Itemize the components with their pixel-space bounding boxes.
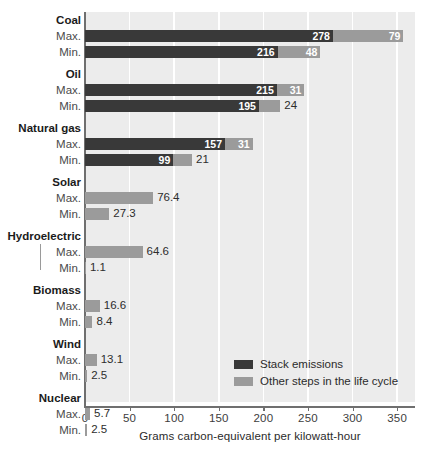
bar-value-other-steps: 13.1 — [101, 354, 123, 366]
gridline-150 — [218, 12, 220, 402]
bar-row: Max.16.6 — [0, 300, 429, 312]
group-label-hydroelectric: Hydroelectric — [0, 230, 81, 242]
bar-segment-stack-emissions: 215 — [85, 84, 277, 96]
row-label-max: Max. — [0, 354, 81, 366]
row-label-min: Min. — [0, 370, 81, 382]
gridline-300 — [352, 12, 354, 402]
bar-segment-other-steps: 31 — [225, 138, 253, 150]
legend-label-stack-emissions: Stack emissions — [260, 358, 343, 370]
bar-segment-other-steps: 48 — [278, 46, 321, 58]
row-label-max: Max. — [0, 300, 81, 312]
bar-value-other-steps: 8.4 — [96, 316, 112, 328]
bar-row: Min.8.4 — [0, 316, 429, 328]
group-label-nuclear: Nuclear — [0, 392, 81, 404]
bar-segment-other-steps: 8.4 — [85, 316, 92, 328]
legend-item-stack-emissions: Stack emissions — [234, 357, 398, 371]
bar-value-other-steps: 79 — [389, 31, 401, 42]
row-label-max: Max. — [0, 192, 81, 204]
row-label-max: Max. — [0, 84, 81, 96]
bar-segment-stack-emissions: 157 — [85, 138, 225, 150]
legend-item-other-steps: Other steps in the life cycle — [234, 374, 398, 388]
bar-segment-other-steps: 76.4 — [85, 192, 153, 204]
bar-value-stack-emissions: 99 — [159, 155, 171, 166]
bar-value-other-steps: 31 — [290, 85, 302, 96]
bar-segment-other-steps: 24 — [259, 100, 280, 112]
bar-segment-other-steps: 79 — [333, 30, 403, 42]
stacked-bar: 13.1 — [85, 354, 97, 366]
group-label-coal: Coal — [0, 14, 81, 26]
bar-value-other-steps: 2.5 — [91, 370, 107, 382]
legend-label-other-steps: Other steps in the life cycle — [260, 375, 398, 387]
bar-segment-other-steps: 31 — [277, 84, 305, 96]
stacked-bar: 15731 — [85, 138, 253, 150]
row-label-max: Max. — [0, 30, 81, 42]
bar-segment-other-steps: 1.1 — [85, 262, 86, 274]
group-label-oil: Oil — [0, 68, 81, 80]
legend-swatch-other-steps — [234, 377, 253, 386]
bar-segment-other-steps: 16.6 — [85, 300, 100, 312]
x-axis-title: Grams carbon-equivalent per kilowatt-hou… — [85, 430, 415, 442]
bar-value-other-steps: 16.6 — [104, 300, 126, 312]
bar-row: Min.27.3 — [0, 208, 429, 220]
bar-value-stack-emissions: 278 — [312, 31, 330, 42]
bar-value-other-steps: 1.1 — [90, 262, 106, 274]
bar-row: Max.15731 — [0, 138, 429, 150]
bar-row: Min.1.1 — [0, 262, 429, 274]
bar-value-other-steps: 21 — [196, 154, 209, 166]
gridline-250 — [307, 12, 309, 402]
stacked-bar: 9921 — [85, 154, 192, 166]
legend-swatch-stack-emissions — [234, 360, 253, 369]
stacked-bar: 8.4 — [85, 316, 92, 328]
bar-value-other-steps: 24 — [284, 100, 297, 112]
bar-value-other-steps: 76.4 — [157, 192, 179, 204]
bar-row: Max.64.6 — [0, 246, 429, 258]
stacked-bar: 19524 — [85, 100, 280, 112]
row-label-min: Min. — [0, 316, 81, 328]
stacked-bar: 27879 — [85, 30, 403, 42]
row-label-min: Min. — [0, 154, 81, 166]
bar-segment-other-steps: 27.3 — [85, 208, 109, 220]
bar-value-other-steps: 5.7 — [94, 408, 110, 420]
bar-value-stack-emissions: 195 — [238, 101, 256, 112]
row-label-min: Min. — [0, 424, 81, 436]
stacked-bar: 1.1 — [85, 262, 86, 274]
stacked-bar: 5.7 — [85, 408, 90, 420]
bar-segment-other-steps: 64.6 — [85, 246, 143, 258]
row-label-min: Min. — [0, 100, 81, 112]
stacked-bar: 2.5 — [85, 370, 87, 382]
row-label-max: Max. — [0, 246, 81, 258]
bar-value-stack-emissions: 215 — [256, 85, 274, 96]
gridline-200 — [263, 12, 265, 402]
bar-value-stack-emissions: 157 — [204, 139, 222, 150]
row-label-max: Max. — [0, 138, 81, 150]
bar-segment-other-steps: 21 — [173, 154, 192, 166]
bar-value-other-steps: 48 — [306, 47, 318, 58]
stacked-bar: 76.4 — [85, 192, 153, 204]
stacked-bar: 64.6 — [85, 246, 143, 258]
bar-value-other-steps: 31 — [238, 139, 250, 150]
group-label-natural-gas: Natural gas — [0, 122, 81, 134]
bar-segment-stack-emissions: 195 — [85, 100, 259, 112]
group-label-wind: Wind — [0, 338, 81, 350]
gridline-100 — [173, 12, 175, 402]
legend: Stack emissions Other steps in the life … — [234, 357, 398, 391]
row-label-min: Min. — [0, 262, 81, 274]
bar-value-stack-emissions: 216 — [257, 47, 275, 58]
bar-segment-other-steps: 5.7 — [85, 408, 90, 420]
row-label-min: Min. — [0, 46, 81, 58]
stacked-bar: 27.3 — [85, 208, 109, 220]
bar-segment-stack-emissions: 99 — [85, 154, 173, 166]
row-label-min: Min. — [0, 208, 81, 220]
bar-row: Max.27879 — [0, 30, 429, 42]
group-label-biomass: Biomass — [0, 284, 81, 296]
emissions-bar-chart: 050100150200250300350 CoalMax.27879Min.2… — [0, 0, 429, 459]
gridline-350 — [396, 12, 398, 402]
stacked-bar: 21531 — [85, 84, 304, 96]
bar-value-other-steps: 27.3 — [113, 208, 135, 220]
bar-segment-stack-emissions: 278 — [85, 30, 333, 42]
bar-row: Max.76.4 — [0, 192, 429, 204]
bar-row: Min.9921 — [0, 154, 429, 166]
bar-row: Max.21531 — [0, 84, 429, 96]
bar-value-other-steps: 64.6 — [147, 246, 169, 258]
bar-row: Min.21648 — [0, 46, 429, 58]
